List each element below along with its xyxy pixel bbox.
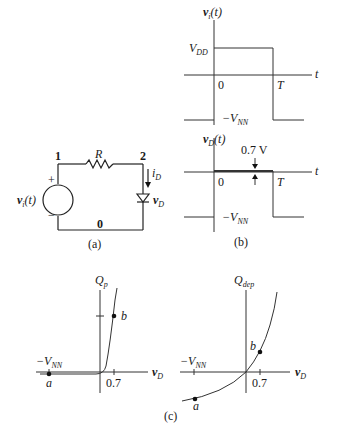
- caption-b: (b): [234, 235, 248, 249]
- qdep-point-b: [258, 350, 263, 355]
- resistor-icon: [86, 160, 113, 168]
- qdep-tick-label: 0.7: [252, 376, 267, 390]
- vd-ylabel: vD(t): [203, 132, 225, 148]
- vi-high-label: VDD: [189, 41, 208, 57]
- qp-a-label: a: [46, 376, 52, 390]
- diode-voltage-label: vD: [153, 193, 164, 209]
- qdep-neg-label: −VNN: [180, 354, 207, 370]
- diode-icon: [137, 194, 149, 202]
- vi-t-label: t: [315, 67, 319, 81]
- current-arrowhead-icon: [145, 182, 151, 188]
- qdep-ylabel: Qdep: [234, 273, 254, 289]
- qdep-b-label: b: [250, 339, 256, 353]
- diagram-canvas: 1 2 0 R + − vi(t) iD vD (a) vi(t) VDD −V…: [0, 0, 338, 440]
- circuit-diagram: 1 2 0 R + − vi(t) iD vD (a): [17, 147, 164, 251]
- vd-arrowhead-up-icon: [252, 174, 258, 179]
- plot-qdep: Qdep vD −VNN 0.7 a b: [180, 273, 306, 413]
- node-0-label: 0: [97, 217, 103, 231]
- qdep-xlabel: vD: [295, 365, 306, 381]
- waveform-vi: vi(t) VDD −VNN 0 T t: [184, 5, 319, 127]
- vi-pulse: [214, 48, 304, 120]
- source-minus-label: −: [48, 208, 55, 222]
- qp-tick-label: 0.7: [106, 376, 121, 390]
- node-2-label: 2: [140, 149, 146, 163]
- caption-c: (c): [164, 409, 177, 423]
- plot-qp: Qp vD −VNN 0.7 a b: [36, 273, 163, 393]
- resistor-label: R: [94, 147, 103, 161]
- source-label: vi(t): [17, 193, 36, 209]
- caption-a: (a): [88, 237, 101, 251]
- vi-origin-label: 0: [218, 78, 224, 92]
- qp-xlabel: vD: [152, 365, 163, 381]
- vd-t-label: t: [315, 164, 319, 178]
- qdep-a-label: a: [193, 399, 199, 413]
- vd-arrowhead-down-icon: [252, 164, 258, 169]
- vd-low-label: −VNN: [222, 210, 249, 226]
- node-1-label: 1: [55, 149, 61, 163]
- vd-period-label: T: [277, 175, 285, 189]
- vd-forward-label: 0.7 V: [241, 143, 268, 157]
- vi-ylabel: vi(t): [203, 5, 222, 21]
- source-plus-label: +: [48, 173, 55, 187]
- vd-origin-label: 0: [218, 175, 224, 189]
- vi-period-label: T: [277, 78, 285, 92]
- qp-b-label: b: [121, 309, 127, 323]
- qp-point-b: [112, 314, 117, 319]
- waveform-vd: vD(t) 0.7 V −VNN 0 T t (b): [184, 132, 319, 249]
- current-label: iD: [152, 166, 161, 182]
- qp-neg-label: −VNN: [36, 354, 63, 370]
- vi-low-label: −VNN: [222, 111, 249, 127]
- qp-ylabel: Qp: [95, 273, 108, 289]
